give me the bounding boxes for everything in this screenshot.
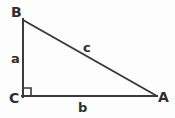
segment-c-hypotenuse bbox=[23, 20, 157, 96]
right-angle-marker-icon bbox=[23, 88, 31, 96]
side-label-b: b bbox=[78, 101, 87, 114]
triangle-drawing bbox=[0, 0, 175, 118]
right-triangle-figure: B C A a b c bbox=[0, 0, 175, 118]
vertex-label-a: A bbox=[158, 90, 169, 104]
side-label-c: c bbox=[83, 41, 91, 54]
side-label-a: a bbox=[11, 52, 20, 65]
vertex-label-b: B bbox=[11, 5, 22, 19]
vertex-label-c: C bbox=[9, 91, 19, 105]
